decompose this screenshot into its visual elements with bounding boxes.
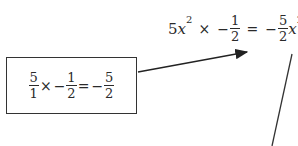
fraction-5-over-2: 5 2 <box>104 71 114 100</box>
fraction-5-over-1: 5 1 <box>29 71 39 100</box>
coefficient: 5 <box>168 20 178 38</box>
minus-sign: − <box>217 21 229 37</box>
equals-sign: = <box>246 21 258 37</box>
exponent: 2 <box>297 14 298 25</box>
arrow-to-top-equation <box>138 52 247 72</box>
equals-sign: = <box>78 78 90 94</box>
exponent: 2 <box>186 14 192 25</box>
variable-x: x <box>178 20 186 38</box>
boxed-equation: 5 1 × − 1 2 = − 5 2 <box>6 57 137 114</box>
times-sign: × <box>198 21 210 37</box>
fraction-1-over-2: 1 2 <box>230 14 240 43</box>
minus-sign: − <box>91 78 103 94</box>
minus-sign: − <box>265 21 277 37</box>
variable-x: x <box>288 20 296 38</box>
times-sign: × <box>40 78 52 94</box>
fraction-5-over-2: 5 2 <box>278 14 288 43</box>
top-equation: 5x2 × − 1 2 = − 5 2 x2 <box>168 14 298 43</box>
minus-sign: − <box>54 78 66 94</box>
fraction-1-over-2: 1 2 <box>66 71 76 100</box>
diagonal-line <box>272 54 292 146</box>
